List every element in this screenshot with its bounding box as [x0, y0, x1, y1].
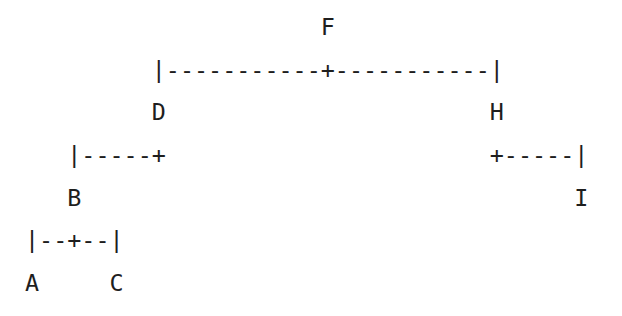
- tree-connector-b: |--+--|: [25, 219, 588, 262]
- tree-row-root-f: F: [25, 6, 588, 49]
- tree-row-a-c: A C: [25, 262, 588, 305]
- ascii-tree-diagram: F |-----------+-----------| D H |-----+ …: [25, 6, 588, 305]
- tree-row-d-h: D H: [25, 91, 588, 134]
- tree-row-b-i: B I: [25, 177, 588, 220]
- tree-connector-d-h: |-----+ +-----|: [25, 134, 588, 177]
- tree-connector-f: |-----------+-----------|: [25, 49, 588, 92]
